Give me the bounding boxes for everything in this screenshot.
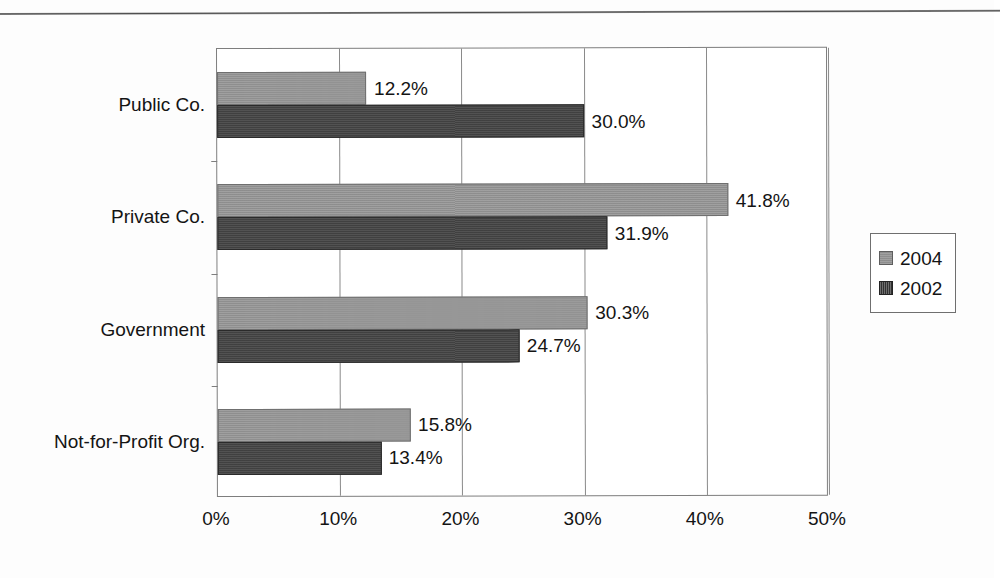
y-axis-tick <box>211 273 217 274</box>
bar-value-label: 30.3% <box>595 303 649 322</box>
x-axis-tick-label: 20% <box>441 509 479 528</box>
legend-label-2004: 2004 <box>900 249 942 268</box>
bar-value-label: 24.7% <box>527 336 581 355</box>
gridline-50% <box>828 48 830 495</box>
bar-2004-not-for-profit-org <box>218 408 411 441</box>
plot-area <box>216 47 828 497</box>
bar-value-label: 30.0% <box>592 112 646 131</box>
bar-2004-government <box>218 296 588 330</box>
legend-label-2002: 2002 <box>900 279 942 298</box>
y-axis-tick <box>211 161 217 162</box>
category-label: Public Co. <box>118 95 205 114</box>
bar-value-label: 15.8% <box>418 415 472 434</box>
category-label: Private Co. <box>111 207 205 226</box>
legend-swatch-2004-icon <box>879 251 893 265</box>
category-label: Not-for-Profit Org. <box>54 432 205 451</box>
legend-item-2004[interactable]: 2004 <box>879 243 955 273</box>
category-label: Government <box>100 320 205 339</box>
x-axis-tick-label: 40% <box>686 509 724 528</box>
bar-2002-government <box>218 329 520 363</box>
bar-2002-private-co <box>217 217 607 251</box>
bar-2002-public-co <box>217 104 584 138</box>
gridline-40% <box>706 48 708 495</box>
bar-2004-private-co <box>217 183 728 217</box>
bar-value-label: 12.2% <box>374 79 428 98</box>
chart-legend: 2004 2002 <box>870 233 956 313</box>
bar-2004-public-co <box>217 72 366 105</box>
legend-swatch-2002-icon <box>879 281 893 295</box>
y-axis-tick <box>212 386 218 387</box>
gridline-30% <box>584 48 586 495</box>
x-axis-tick-label: 0% <box>202 509 229 528</box>
bar-value-label: 41.8% <box>736 191 790 210</box>
bar-value-label: 13.4% <box>389 448 443 467</box>
bar-2002-not-for-profit-org <box>218 442 382 475</box>
bar-value-label: 31.9% <box>615 224 669 243</box>
x-axis-tick-label: 10% <box>319 509 357 528</box>
x-axis-tick-label: 30% <box>564 509 602 528</box>
x-axis-tick-label: 50% <box>808 509 846 528</box>
legend-item-2002[interactable]: 2002 <box>879 273 955 303</box>
